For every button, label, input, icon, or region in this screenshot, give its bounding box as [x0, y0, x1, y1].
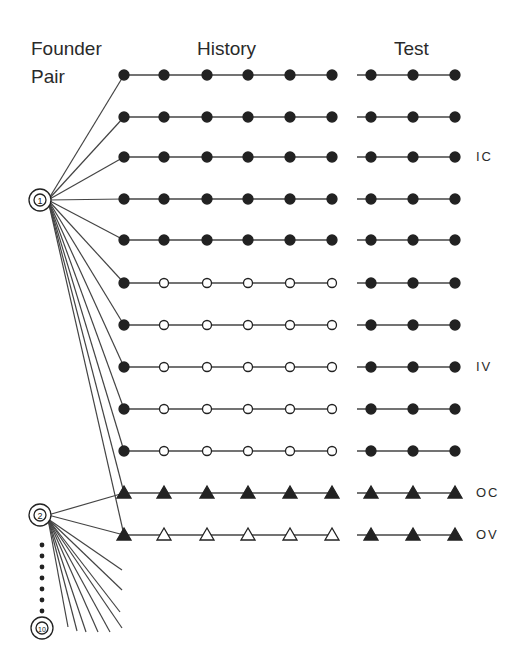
filled-circle-node [119, 112, 129, 122]
open-circle-node [160, 321, 169, 330]
fan-line [48, 519, 86, 632]
filled-circle-node [119, 404, 129, 414]
open-circle-node [244, 405, 253, 414]
filled-triangle-node [200, 486, 214, 498]
filled-circle-node [119, 320, 129, 330]
filled-circle-node [285, 152, 295, 162]
open-circle-node [328, 405, 337, 414]
filled-circle-node [285, 194, 295, 204]
filled-circle-node [366, 112, 376, 122]
open-circle-node [244, 447, 253, 456]
founder-link [48, 200, 124, 240]
filled-circle-node [366, 152, 376, 162]
filled-circle-node [408, 112, 418, 122]
ellipsis-dot [40, 565, 45, 570]
filled-circle-node [366, 320, 376, 330]
test-header: Test [394, 38, 429, 60]
filled-circle-node [408, 320, 418, 330]
filled-circle-node [366, 194, 376, 204]
open-circle-node [244, 279, 253, 288]
filled-circle-node [159, 235, 169, 245]
open-circle-node [160, 363, 169, 372]
filled-circle-node [450, 320, 460, 330]
filled-circle-node [450, 194, 460, 204]
open-circle-node [286, 321, 295, 330]
open-circle-node [203, 405, 212, 414]
filled-circle-node [408, 194, 418, 204]
filled-circle-node [202, 70, 212, 80]
filled-triangle-node [241, 486, 255, 498]
founder-link [48, 75, 124, 200]
filled-triangle-node [117, 486, 131, 498]
filled-circle-node [408, 152, 418, 162]
founder-header-line2: Pair [31, 66, 65, 88]
open-circle-node [328, 363, 337, 372]
filled-circle-node [450, 70, 460, 80]
open-circle-node [160, 405, 169, 414]
filled-circle-node [243, 235, 253, 245]
filled-circle-node [366, 70, 376, 80]
group-label-oc: OC [476, 485, 500, 500]
filled-circle-node [408, 446, 418, 456]
filled-circle-node [450, 235, 460, 245]
filled-triangle-node [406, 486, 420, 498]
filled-circle-node [119, 278, 129, 288]
filled-circle-node [119, 194, 129, 204]
filled-circle-node [408, 235, 418, 245]
filled-circle-node [327, 112, 337, 122]
group-label-iv: IV [476, 359, 492, 374]
filled-triangle-node [448, 486, 462, 498]
founder-link [48, 200, 124, 535]
fan-line [48, 519, 120, 612]
open-triangle-node [157, 528, 171, 540]
filled-circle-node [119, 152, 129, 162]
colony-rows [117, 70, 462, 540]
filled-triangle-node [283, 486, 297, 498]
filled-circle-node [450, 404, 460, 414]
founder-link [48, 117, 124, 200]
filled-circle-node [243, 152, 253, 162]
filled-circle-node [408, 70, 418, 80]
open-circle-node [203, 321, 212, 330]
filled-circle-node [327, 235, 337, 245]
open-triangle-node [325, 528, 339, 540]
filled-circle-node [366, 278, 376, 288]
filled-circle-node [159, 194, 169, 204]
founder-link [48, 515, 124, 535]
founder-link [48, 200, 124, 367]
filled-circle-node [119, 70, 129, 80]
filled-triangle-node [448, 528, 462, 540]
filled-circle-node [366, 404, 376, 414]
filled-circle-node [285, 112, 295, 122]
founder-link [48, 199, 124, 200]
open-circle-node [203, 279, 212, 288]
open-circle-node [203, 363, 212, 372]
filled-triangle-node [364, 528, 378, 540]
filled-triangle-node [325, 486, 339, 498]
filled-circle-node [159, 152, 169, 162]
filled-circle-node [119, 362, 129, 372]
group-label-ic: IC [476, 149, 493, 164]
ellipsis-dot [40, 587, 45, 592]
filled-circle-node [202, 194, 212, 204]
filled-circle-node [327, 152, 337, 162]
founder-header-line1: Founder [31, 38, 102, 60]
filled-circle-node [327, 70, 337, 80]
history-header: History [197, 38, 256, 60]
filled-triangle-node [157, 486, 171, 498]
filled-circle-node [327, 194, 337, 204]
filled-circle-node [285, 70, 295, 80]
filled-circle-node [202, 112, 212, 122]
ellipsis-dot [40, 598, 45, 603]
filled-circle-node [408, 278, 418, 288]
filled-circle-node [450, 278, 460, 288]
open-triangle-node [200, 528, 214, 540]
open-circle-node [328, 279, 337, 288]
open-circle-node [328, 447, 337, 456]
filled-circle-node [159, 70, 169, 80]
filled-circle-node [243, 70, 253, 80]
open-circle-node [286, 279, 295, 288]
open-circle-node [286, 405, 295, 414]
founder-pairs: 1210 [29, 189, 53, 639]
founder-link [48, 493, 124, 515]
